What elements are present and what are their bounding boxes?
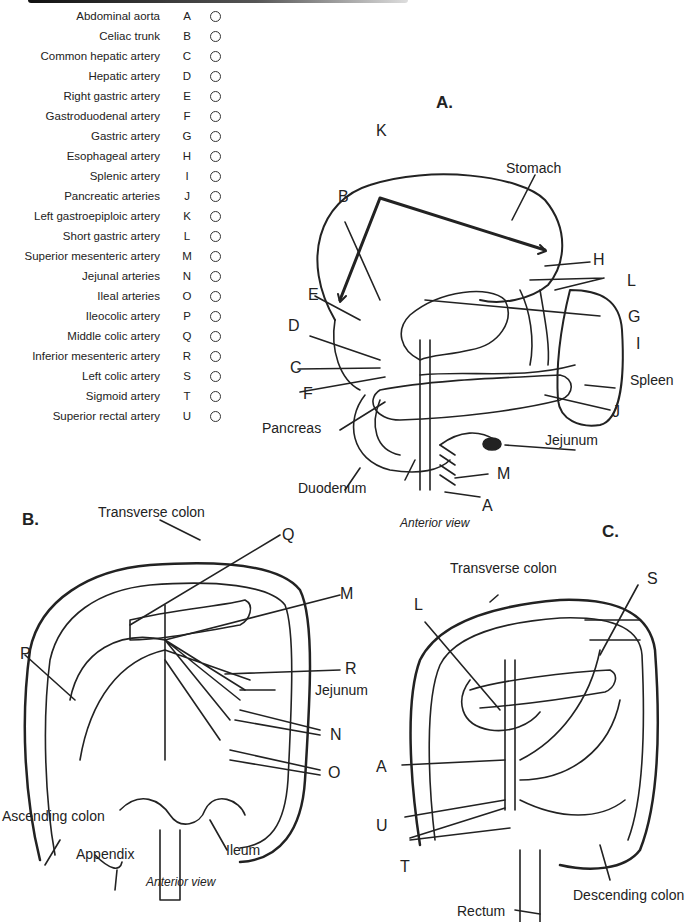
panel-a-view: Anterior view <box>400 516 469 530</box>
label-r: R <box>345 660 357 678</box>
label-j: J <box>612 403 620 421</box>
panel-b-title: B. <box>22 510 39 530</box>
label-m-b: M <box>340 585 353 603</box>
label-jejunum-a: Jejunum <box>545 432 598 448</box>
panel-c-title: C. <box>602 522 619 542</box>
label-i: I <box>636 335 640 353</box>
label-m-a: M <box>497 465 510 483</box>
label-c: C <box>290 359 302 377</box>
anatomy-illustration <box>0 0 694 922</box>
label-appendix: Appendix <box>76 846 134 862</box>
label-transverse-colon-b: Transverse colon <box>98 504 205 520</box>
label-ascending-colon: Ascending colon <box>2 808 105 824</box>
label-spleen: Spleen <box>630 372 674 388</box>
label-pancreas: Pancreas <box>262 420 321 436</box>
label-a-a: A <box>482 497 493 515</box>
label-p: P <box>20 645 31 663</box>
label-b: B <box>338 188 349 206</box>
label-g: G <box>628 308 640 326</box>
label-u: U <box>376 817 388 835</box>
label-d: D <box>288 317 300 335</box>
panel-a-drawing <box>298 174 623 497</box>
panel-a-title: A. <box>436 93 453 113</box>
label-descending-colon: Descending colon <box>573 887 684 903</box>
panel-b-view: Anterior view <box>146 875 215 889</box>
label-duodenum: Duodenum <box>298 480 367 496</box>
label-jejunum-b: Jejunum <box>315 682 368 698</box>
label-k: K <box>376 122 387 140</box>
label-ileum: Ileum <box>226 842 260 858</box>
label-h: H <box>593 251 605 269</box>
label-q: Q <box>282 526 294 544</box>
label-l-a: L <box>627 272 636 290</box>
label-s: S <box>647 570 658 588</box>
panel-c-drawing <box>402 585 658 922</box>
label-o: O <box>328 764 340 782</box>
label-a-c: A <box>376 758 387 776</box>
label-transverse-colon-c: Transverse colon <box>450 560 557 576</box>
label-t: T <box>400 858 410 876</box>
label-n: N <box>330 726 342 744</box>
label-rectum: Rectum <box>457 903 505 919</box>
label-f: F <box>303 385 313 403</box>
label-e: E <box>308 286 319 304</box>
label-l-c: L <box>414 596 423 614</box>
label-stomach: Stomach <box>506 160 561 176</box>
panel-b-drawing <box>25 520 340 900</box>
